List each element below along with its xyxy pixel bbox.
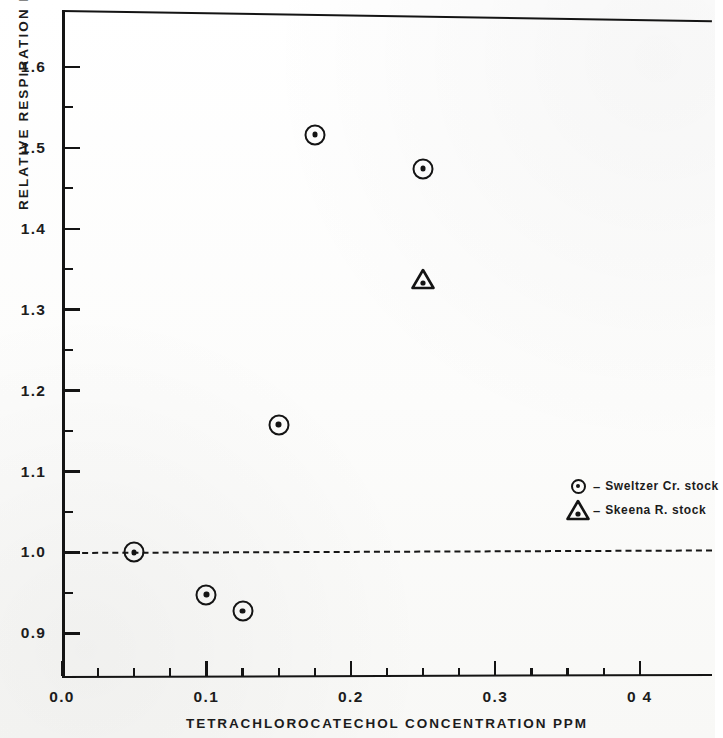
circle-dot-marker-icon <box>124 542 145 563</box>
circle-dot-marker-icon <box>304 124 325 145</box>
data-point <box>304 124 325 145</box>
y-tick <box>65 632 80 634</box>
x-tick <box>494 661 496 676</box>
x-tick-label: 0 4 <box>605 688 675 706</box>
circle-dot-marker-icon <box>232 600 253 621</box>
data-point <box>411 268 435 290</box>
x-tick <box>530 668 532 676</box>
y-tick-label: 1.4 <box>0 220 46 238</box>
x-tick <box>61 661 63 676</box>
y-tick <box>65 430 73 432</box>
data-point <box>124 542 145 563</box>
data-point <box>196 584 217 605</box>
legend-label: Skeena R. stock <box>605 503 706 517</box>
x-tick-label: 0.3 <box>460 688 530 706</box>
x-tick <box>278 668 280 676</box>
y-tick <box>65 470 80 472</box>
data-point <box>413 158 434 179</box>
top-frame-line <box>62 10 712 22</box>
x-tick <box>566 668 568 676</box>
triangle-dot-marker-icon <box>411 268 435 290</box>
y-tick <box>65 187 73 189</box>
y-tick <box>65 268 73 270</box>
y-tick-label: 0.9 <box>0 624 46 642</box>
y-tick-label: 1.3 <box>0 301 46 319</box>
y-tick <box>65 389 80 391</box>
y-axis-title: RELATIVE RESPIRATION RATE <box>16 0 31 210</box>
y-tick-label: 1.1 <box>0 463 46 481</box>
legend-label: Sweltzer Cr. stock <box>605 479 719 493</box>
circle-dot-marker-icon <box>268 414 289 435</box>
y-tick <box>65 106 73 108</box>
x-axis-title: TETRACHLOROCATECHOL CONCENTRATION PPM <box>62 716 712 731</box>
y-tick <box>65 349 73 351</box>
y-tick <box>65 308 80 310</box>
x-tick <box>639 661 641 676</box>
y-axis-line <box>62 10 65 678</box>
y-tick-label: 1.2 <box>0 382 46 400</box>
x-tick <box>133 668 135 676</box>
reference-line-baseline <box>62 550 712 554</box>
x-tick <box>205 661 207 676</box>
y-tick <box>65 66 80 68</box>
x-tick-label: 0.1 <box>171 688 241 706</box>
legend-marker-swatch <box>567 475 589 497</box>
y-tick <box>65 511 73 513</box>
legend-entry: –Sweltzer Cr. stock <box>567 475 723 497</box>
x-tick-label: 0.2 <box>316 688 386 706</box>
x-tick <box>458 668 460 676</box>
circle-dot-marker-icon <box>571 479 586 494</box>
legend-marker-swatch <box>567 499 589 521</box>
x-tick <box>386 668 388 676</box>
legend-dash: – <box>593 479 600 494</box>
plot-area: 1.61.51.41.31.21.11.00.9 0.00.10.20.30 4… <box>62 10 712 678</box>
triangle-dot-marker-icon <box>566 499 590 521</box>
legend-entry: –Skeena R. stock <box>567 499 723 521</box>
y-tick <box>65 592 73 594</box>
x-tick <box>603 668 605 676</box>
x-tick <box>314 668 316 676</box>
x-tick <box>97 668 99 676</box>
y-tick <box>65 147 80 149</box>
x-tick <box>169 668 171 676</box>
chart-legend: –Sweltzer Cr. stock–Skeena R. stock <box>567 475 723 523</box>
data-point <box>232 600 253 621</box>
circle-dot-marker-icon <box>413 158 434 179</box>
legend-dash: – <box>593 503 600 518</box>
y-tick <box>65 228 80 230</box>
circle-dot-marker-icon <box>196 584 217 605</box>
y-tick-label: 1.0 <box>0 543 46 561</box>
x-tick-label: 0.0 <box>27 688 97 706</box>
x-tick <box>241 668 243 676</box>
data-point <box>268 414 289 435</box>
x-tick <box>350 661 352 676</box>
x-tick <box>422 668 424 676</box>
